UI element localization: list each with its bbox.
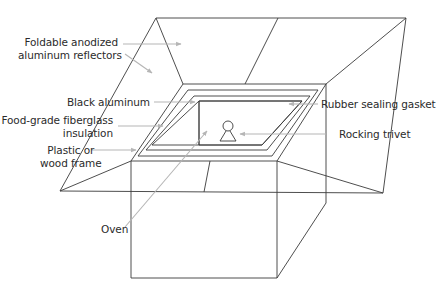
rocking-trivet-icon	[220, 121, 236, 141]
label-insulation: Food-grade fiberglass insulation	[0, 114, 113, 140]
label-reflectors-line2: aluminum reflectors	[18, 49, 118, 62]
front-reflector-edge	[60, 191, 383, 193]
top-reflector	[156, 18, 406, 84]
label-insulation-line1: Food-grade fiberglass	[0, 114, 113, 127]
label-frame-line2: wood frame	[40, 157, 102, 170]
label-frame-line1: Plastic or	[40, 144, 102, 157]
label-reflectors: Foldable anodized aluminum reflectors	[18, 36, 118, 62]
label-black-aluminum: Black aluminum	[48, 96, 150, 109]
label-reflectors-line1: Foldable anodized	[18, 36, 118, 49]
label-oven: Oven	[101, 223, 128, 236]
frame-3	[146, 96, 310, 150]
label-insulation-line2: insulation	[0, 127, 113, 140]
inner-window	[199, 101, 302, 145]
label-trivet: Rocking trivet	[339, 128, 410, 141]
frame-2	[138, 90, 318, 156]
label-gasket: Rubber sealing gasket	[321, 98, 436, 111]
label-frame: Plastic or wood frame	[40, 144, 102, 170]
